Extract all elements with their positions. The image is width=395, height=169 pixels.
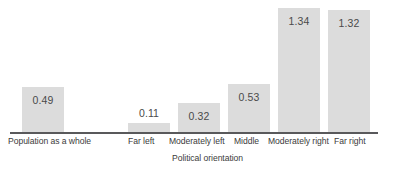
- x-axis-tick-label-middle: Middle: [234, 137, 259, 146]
- x-axis-tick-label-far-right: Far right: [334, 137, 366, 146]
- x-axis-title: Political orientation: [172, 153, 243, 163]
- bar-value-label: 0.49: [22, 95, 64, 106]
- bar-middle: 0.53: [228, 84, 270, 133]
- bar-value-label: 0.53: [228, 92, 270, 103]
- bar-value-label: 1.32: [328, 18, 370, 29]
- bar-value-label: 0.32: [178, 111, 220, 122]
- bar-moderately-left: 0.32: [178, 103, 220, 133]
- bar-moderately-right: 1.34: [278, 8, 320, 133]
- bar-value-label: 0.11: [128, 108, 170, 119]
- plot-area: 0.49 0.11 0.32 0.53 1.34 1.32: [0, 0, 395, 133]
- bar-value-label: 1.34: [278, 16, 320, 27]
- bar-population-as-a-whole: 0.49: [22, 87, 64, 133]
- bar-chart: 0.49 0.11 0.32 0.53 1.34 1.32 Population…: [0, 0, 395, 169]
- bar-far-right: 1.32: [328, 10, 370, 133]
- x-axis-tick-label-far-left: Far left: [128, 137, 154, 146]
- x-axis-line: [10, 132, 378, 134]
- x-axis-tick-label-population-as-a-whole: Population as a whole: [8, 137, 91, 146]
- x-axis-tick-label-moderately-left: Moderately left: [169, 137, 225, 146]
- x-axis-tick-label-moderately-right: Moderately right: [268, 137, 329, 146]
